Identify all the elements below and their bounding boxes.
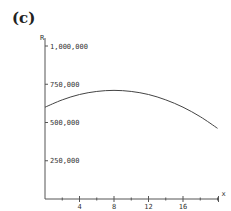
chart-svg: 250,000500,000750,0001,000,000481216 R x <box>0 0 231 210</box>
tick-labels: 250,000500,000750,0001,000,000481216 <box>50 43 187 211</box>
y-tick-label: 1,000,000 <box>50 43 88 51</box>
y-tick-label: 250,000 <box>50 157 80 165</box>
y-axis-label: R <box>40 34 45 42</box>
x-axis-label: x <box>222 190 226 198</box>
x-tick-label: 12 <box>144 203 152 210</box>
x-tick-label: 4 <box>77 203 81 210</box>
x-tick-label: 16 <box>179 203 187 210</box>
y-tick-label: 500,000 <box>50 119 80 127</box>
x-tick-label: 8 <box>112 203 116 210</box>
y-tick-label: 750,000 <box>50 81 80 89</box>
